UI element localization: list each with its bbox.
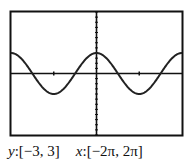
x-range-label: :[−2π, 2π] <box>82 143 142 159</box>
calculator-graph-screen <box>0 0 192 140</box>
y-range-label: :[−3, 3] <box>15 143 60 159</box>
window-caption: y:[−3, 3]x:[−2π, 2π] <box>8 143 143 160</box>
y-var-label: y <box>8 143 15 159</box>
